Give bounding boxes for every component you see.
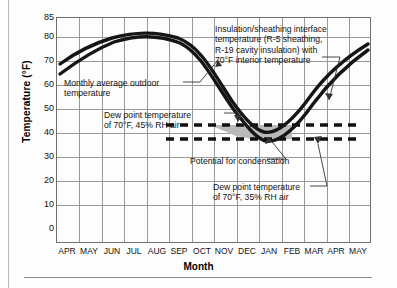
annotation-dewpoint-45rh: Dew point temperature of 70°F, 45% RH ai…	[104, 110, 191, 131]
annotation-outdoor-temperature: Monthly average outdoor temperature	[64, 78, 159, 99]
annotation-interface-temperature: Insulation/sheathing interface temperatu…	[215, 24, 327, 66]
x-axis-title: Month	[0, 261, 397, 272]
annotation-dewpoint-35rh: Dew point temperature of 70°F, 35% RH ai…	[213, 182, 300, 203]
figure-container: 85 80 70 60 50 40 30 20 10 0 Temperature…	[0, 0, 397, 288]
x-tick-may-2: MAY	[343, 246, 373, 256]
annotation-leaders	[183, 57, 340, 186]
chart-graphics	[0, 0, 397, 288]
annotation-potential-condensation: Potential for condensation	[190, 156, 289, 166]
